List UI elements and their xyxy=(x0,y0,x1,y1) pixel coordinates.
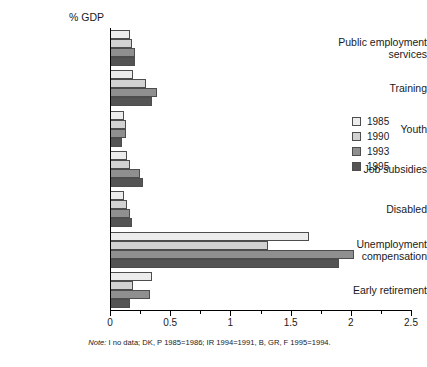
x-tick-label: 2.5 xyxy=(404,317,418,328)
legend-swatch xyxy=(352,132,361,141)
legend-label: 1990 xyxy=(367,131,389,142)
y-category-label: Public employment services xyxy=(323,36,427,60)
x-tick-label: 1 xyxy=(228,317,234,328)
bar xyxy=(110,160,130,169)
bar xyxy=(110,209,130,218)
x-tick-minor xyxy=(381,311,382,314)
legend-item[interactable]: 1990 xyxy=(352,129,389,144)
bar xyxy=(110,259,339,268)
bar xyxy=(110,290,150,299)
x-tick-minor xyxy=(200,311,201,314)
note-prefix: Note: xyxy=(88,338,106,347)
legend-item[interactable]: 1985 xyxy=(352,114,389,129)
y-category-label: Early retirement xyxy=(323,284,427,296)
y-axis-line xyxy=(110,28,111,311)
bar xyxy=(110,120,126,129)
x-tick-label: 0 xyxy=(107,317,113,328)
bar xyxy=(110,88,157,97)
bar xyxy=(110,272,152,281)
legend: 1985199019931995 xyxy=(352,114,389,174)
note-text: I no data; DK, P 1985=1986; IR 1994=1991… xyxy=(106,338,330,347)
legend-item[interactable]: 1995 xyxy=(352,159,389,174)
y-category-label: Training xyxy=(323,82,427,94)
bar xyxy=(110,79,146,88)
legend-swatch xyxy=(352,147,361,156)
y-category-label: Disabled xyxy=(323,203,427,215)
x-tick-major xyxy=(291,311,292,316)
bar xyxy=(110,97,152,106)
legend-swatch xyxy=(352,117,361,126)
bar-chart: % GDP Public employment servicesTraining… xyxy=(0,0,427,367)
x-tick-minor xyxy=(321,311,322,314)
x-tick-major xyxy=(411,311,412,316)
legend-label: 1995 xyxy=(367,161,389,172)
bar xyxy=(110,191,124,200)
bar xyxy=(110,241,268,250)
bar xyxy=(110,70,133,79)
x-tick-major xyxy=(230,311,231,316)
bar xyxy=(110,218,132,227)
bar xyxy=(110,138,122,147)
bar xyxy=(110,39,132,48)
x-tick-minor xyxy=(261,311,262,314)
bar xyxy=(110,178,143,187)
legend-label: 1985 xyxy=(367,116,389,127)
chart-note: Note: I no data; DK, P 1985=1986; IR 199… xyxy=(0,338,419,347)
bar xyxy=(110,299,130,308)
bar xyxy=(110,30,130,39)
bar xyxy=(110,281,133,290)
bar xyxy=(110,250,354,259)
x-tick-major xyxy=(110,311,111,316)
legend-item[interactable]: 1993 xyxy=(352,144,389,159)
x-tick-label: 1.5 xyxy=(284,317,298,328)
legend-swatch xyxy=(352,162,361,171)
bar xyxy=(110,111,124,120)
bar xyxy=(110,151,127,160)
x-tick-major xyxy=(170,311,171,316)
y-axis-title: % GDP xyxy=(69,11,104,23)
x-tick-minor xyxy=(140,311,141,314)
bar xyxy=(110,129,126,138)
bar xyxy=(110,200,127,209)
x-tick-major xyxy=(351,311,352,316)
legend-label: 1993 xyxy=(367,146,389,157)
bar xyxy=(110,57,135,66)
x-tick-label: 2 xyxy=(348,317,354,328)
bar xyxy=(110,232,309,241)
bar xyxy=(110,169,140,178)
bar xyxy=(110,48,135,57)
x-tick-label: 0.5 xyxy=(163,317,177,328)
